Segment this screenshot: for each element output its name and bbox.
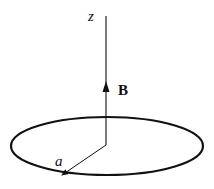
b-arrow-icon [103, 81, 110, 92]
current-loop [11, 117, 203, 175]
loop-field-diagram: z B a [0, 0, 214, 189]
radius-label: a [55, 153, 63, 169]
z-axis-label: z [87, 8, 94, 24]
field-label: B [118, 82, 128, 98]
diagram-svg: z B a [0, 0, 214, 189]
radius-line [62, 145, 106, 175]
